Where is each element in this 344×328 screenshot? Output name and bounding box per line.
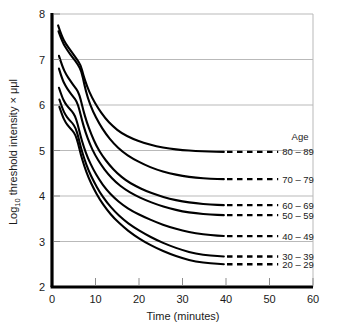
chart-svg: 0102030405060 2345678 80 – 8970 – 7960 –… — [0, 0, 344, 328]
y-tick-label-8: 8 — [39, 8, 45, 20]
legend-label-50-59: 50 – 59 — [282, 210, 314, 221]
x-tick-label-10: 10 — [89, 293, 101, 305]
x-tick-label-0: 0 — [49, 293, 55, 305]
y-axis-title-main: Log — [7, 207, 19, 225]
x-axis-title: Time (minutes) — [147, 310, 220, 322]
dark-adaptation-chart: 0102030405060 2345678 80 – 8970 – 7960 –… — [0, 0, 344, 328]
y-tick-label-6: 6 — [39, 99, 45, 111]
y-tick-label-4: 4 — [39, 190, 45, 202]
y-tick-label-3: 3 — [39, 236, 45, 248]
y-tick-label-7: 7 — [39, 54, 45, 66]
x-tick-label-20: 20 — [133, 293, 145, 305]
y-tick-label-5: 5 — [39, 145, 45, 157]
legend-title: Age — [292, 131, 309, 142]
y-tick-label-2: 2 — [39, 281, 45, 293]
y-axis-title-subscript: 10 — [13, 198, 22, 206]
x-tick-label-40: 40 — [220, 293, 232, 305]
legend-label-20-29: 20 – 29 — [282, 259, 314, 270]
y-axis-title-rest: threshold intensity × μμl — [7, 79, 19, 198]
x-tick-label-50: 50 — [263, 293, 275, 305]
legend-label-40-49: 40 – 49 — [282, 231, 314, 242]
x-tick-label-30: 30 — [176, 293, 188, 305]
x-tick-label-60: 60 — [307, 293, 319, 305]
legend-label-70-79: 70 – 79 — [282, 174, 314, 185]
legend-label-80-89: 80 – 89 — [282, 146, 314, 157]
